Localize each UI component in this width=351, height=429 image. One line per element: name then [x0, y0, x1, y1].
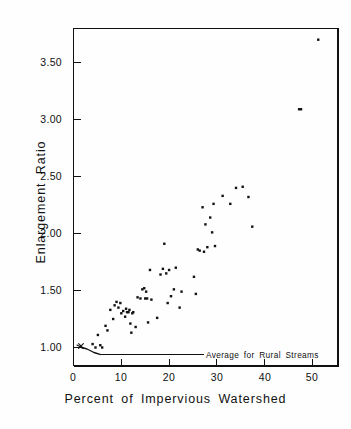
scatter-point [104, 325, 106, 327]
scatter-point [209, 216, 211, 218]
scatter-point [201, 206, 203, 208]
scatter-point [127, 311, 129, 313]
scatter-point [156, 317, 158, 319]
scatter-point [119, 302, 121, 304]
scatter-point [94, 346, 96, 348]
scatter-point [198, 249, 200, 251]
scatter-point [122, 310, 124, 312]
scatter-point [91, 343, 93, 345]
scatter-point [139, 297, 141, 299]
figure-canvas: Enlargement Ratio 3.50 3.00 2.50 2.00 1.… [0, 0, 351, 429]
scatter-point [136, 296, 138, 298]
x-axis-ticks [74, 359, 313, 366]
scatter-point [99, 344, 101, 346]
scatter-point [113, 304, 115, 306]
scatter-data-points [91, 39, 319, 349]
scatter-point [180, 290, 182, 292]
scatter-point [134, 326, 136, 328]
scatter-point [193, 276, 195, 278]
scatter-point [109, 309, 111, 311]
scatter-point [132, 311, 134, 313]
scatter-point [165, 272, 167, 274]
scatter-point [125, 308, 127, 310]
scatter-point [173, 288, 175, 290]
scatter-point [129, 322, 131, 324]
scatter-point [317, 39, 319, 41]
scatter-point [221, 195, 223, 197]
scatter-point [214, 245, 216, 247]
y-axis-ticks [74, 63, 81, 348]
scatter-point [145, 290, 147, 292]
scatter-point [106, 329, 108, 331]
scatter-point [117, 306, 119, 308]
scatter-point [229, 203, 231, 205]
scatter-point [300, 108, 302, 110]
scatter-point [143, 287, 145, 289]
scatter-point [166, 302, 168, 304]
scatter-point [130, 331, 132, 333]
scatter-point [170, 295, 172, 297]
scatter-point [162, 268, 164, 270]
scatter-point [168, 269, 170, 271]
scatter-point [124, 316, 126, 318]
scatter-point [159, 273, 161, 275]
scatter-point [251, 225, 253, 227]
scatter-point [149, 269, 151, 271]
scatter-point [212, 203, 214, 205]
scatter-point [206, 246, 208, 248]
axes-frame [74, 29, 339, 367]
scatter-point [97, 334, 99, 336]
scatter-point [163, 243, 165, 245]
scatter-point [204, 223, 206, 225]
scatter-point [128, 309, 130, 311]
scatter-point [178, 306, 180, 308]
scatter-point [120, 312, 122, 314]
scatter-point [211, 231, 213, 233]
scatter-point [115, 301, 117, 303]
scatter-point [175, 267, 177, 269]
scatter-point [242, 186, 244, 188]
scatter-point [101, 346, 103, 348]
scatter-point [112, 318, 114, 320]
scatter-point [147, 321, 149, 323]
plot-area [0, 0, 351, 429]
scatter-point [150, 298, 152, 300]
scatter-point [146, 297, 148, 299]
scatter-point [195, 293, 197, 295]
scatter-point [235, 187, 237, 189]
scatter-point [203, 251, 205, 253]
scatter-point [247, 196, 249, 198]
